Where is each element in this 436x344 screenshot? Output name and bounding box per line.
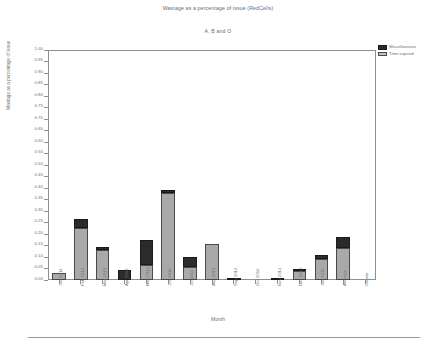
chart-page: Wastage as a percentage of issue (RedCel… — [0, 0, 436, 344]
bar-group[interactable] — [227, 50, 241, 280]
y-axis-tick-label: 0.45 — [34, 173, 43, 177]
bar-segment-miscellaneous[interactable] — [315, 255, 329, 260]
x-axis-tick-label: Jan 2014 — [59, 268, 63, 286]
y-axis-tick-label: 0.85 — [34, 81, 43, 85]
bar-group[interactable] — [74, 50, 88, 280]
bar-segment-miscellaneous[interactable] — [161, 190, 175, 192]
x-axis-tick-label: Average — [343, 270, 347, 286]
y-axis-tick-label: 0.10 — [34, 254, 43, 258]
bar-group[interactable] — [249, 50, 263, 280]
y-axis-tick-label: 0.65 — [34, 127, 43, 131]
bar-segment-miscellaneous[interactable] — [96, 247, 110, 250]
y-axis-tick-label: 0.40 — [34, 185, 43, 189]
x-axis-title: Month — [0, 316, 436, 322]
y-axis-tick-label: 0.00 — [34, 277, 43, 281]
y-axis: 1.000.950.900.850.800.750.700.650.600.55… — [0, 50, 48, 280]
x-axis-tick-label: Apr 2014 — [125, 269, 129, 286]
chart-title: Wastage as a percentage of issue (RedCel… — [0, 5, 436, 11]
bar-group[interactable] — [205, 50, 219, 280]
bar-group[interactable] — [271, 50, 285, 280]
bar-segment-time-expired[interactable] — [161, 193, 175, 280]
bar-group[interactable] — [161, 50, 175, 280]
bar-group[interactable] — [315, 50, 329, 280]
bar-segment-miscellaneous[interactable] — [183, 257, 197, 267]
y-axis-tick-label: 0.15 — [34, 242, 43, 246]
y-axis-tick-label: 0.25 — [34, 219, 43, 223]
bar-group[interactable] — [336, 50, 350, 280]
bar-segment-miscellaneous[interactable] — [336, 237, 350, 247]
legend-item[interactable]: Miscellaneous — [378, 45, 436, 50]
y-axis-tick-label: 0.55 — [34, 150, 43, 154]
bar-group[interactable] — [183, 50, 197, 280]
bar-series-container — [48, 50, 376, 280]
bar-group[interactable] — [358, 50, 372, 280]
y-axis-tick-label: 0.20 — [34, 231, 43, 235]
y-axis-tick-label: 0.80 — [34, 93, 43, 97]
legend-swatch-icon — [378, 52, 387, 57]
bar-group[interactable] — [140, 50, 154, 280]
x-axis-tick-label: Nov 2014 — [278, 268, 282, 286]
y-axis-tick-label: 0.60 — [34, 139, 43, 143]
x-axis-tick-label: Feb 2014 — [81, 268, 85, 286]
legend-swatch-icon — [378, 45, 387, 50]
x-axis-tick-label: Dec 2014 — [299, 268, 303, 286]
bar-segment-miscellaneous[interactable] — [140, 240, 154, 265]
y-axis-tick-label: 0.35 — [34, 196, 43, 200]
x-axis-tick-label: Mar 2014 — [103, 268, 107, 286]
x-axis-tick-label: Jun 2014 — [168, 268, 172, 286]
legend-item-label: Time expired — [389, 52, 414, 57]
x-axis-tick-label: Oct 2014 — [256, 269, 260, 286]
y-axis-tick-label: 0.30 — [34, 208, 43, 212]
y-axis-tick-label: 0.70 — [34, 116, 43, 120]
bar-segment-miscellaneous[interactable] — [74, 219, 88, 228]
x-axis: Jan 2014Feb 2014Mar 2014Apr 2014May 2014… — [48, 280, 376, 340]
x-axis-tick-label: Jul 2014 — [190, 270, 194, 286]
x-axis-tick-label: Cluster — [365, 272, 369, 286]
x-axis-tick-label: Sep 2014 — [234, 268, 238, 286]
y-axis-tick-label: 0.95 — [34, 58, 43, 62]
x-axis-tick-label: May 2014 — [146, 267, 150, 286]
bar-group[interactable] — [52, 50, 66, 280]
chart-subtitle: A, B and O — [0, 28, 436, 34]
footer-divider — [28, 337, 420, 338]
y-axis-tick-label: 0.75 — [34, 104, 43, 108]
legend-item[interactable]: Time expired — [378, 52, 436, 57]
y-axis-tick-label: 1.00 — [34, 47, 43, 51]
y-axis-tick-label: 0.50 — [34, 162, 43, 166]
x-axis-tick-label: Aug 2014 — [212, 268, 216, 286]
y-axis-tick-label: 0.05 — [34, 265, 43, 269]
bar-group[interactable] — [293, 50, 307, 280]
legend-item-label: Miscellaneous — [389, 45, 416, 50]
y-axis-tick-label: 0.90 — [34, 70, 43, 74]
x-axis-tick-label: Jan 2015 — [321, 268, 325, 286]
chart-legend: MiscellaneousTime expired — [378, 45, 436, 59]
bar-group[interactable] — [118, 50, 132, 280]
bar-group[interactable] — [96, 50, 110, 280]
